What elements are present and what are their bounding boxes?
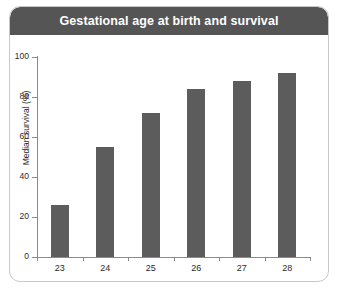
bar-26 bbox=[187, 89, 205, 257]
x-axis-tick bbox=[83, 257, 84, 261]
x-axis-tick bbox=[265, 257, 266, 261]
x-axis-tick-label: 24 bbox=[100, 263, 110, 273]
y-axis-title: Median survival (%) bbox=[21, 68, 31, 188]
bars-container: 020406080100232425262728 bbox=[37, 57, 310, 257]
x-axis-tick-label: 26 bbox=[191, 263, 201, 273]
x-axis-title: Gestational age (weeks) bbox=[10, 281, 329, 282]
y-axis-tick-label: 0 bbox=[24, 251, 29, 261]
page-title: Gestational age at birth and survival bbox=[59, 14, 278, 28]
bar-24 bbox=[96, 147, 114, 257]
chart-header: Gestational age at birth and survival bbox=[10, 7, 328, 35]
x-axis-tick-label: 28 bbox=[282, 263, 292, 273]
y-axis-tick-label: 20 bbox=[20, 211, 29, 221]
y-axis-tick: 60 bbox=[32, 137, 37, 138]
x-axis-tick bbox=[174, 257, 175, 261]
chart-plot-area: Median survival (%) 02040608010023242526… bbox=[10, 35, 329, 282]
x-axis-tick bbox=[310, 257, 311, 261]
chart-card: Gestational age at birth and survival Me… bbox=[9, 6, 329, 282]
x-axis-tick-label: 27 bbox=[237, 263, 247, 273]
y-axis-tick: 40 bbox=[32, 177, 37, 178]
x-axis-tick bbox=[128, 257, 129, 261]
bar-27 bbox=[233, 81, 251, 257]
x-axis-tick-label: 23 bbox=[55, 263, 65, 273]
y-axis-tick: 100 bbox=[32, 57, 37, 58]
y-axis-tick-label: 40 bbox=[20, 171, 29, 181]
x-axis-tick bbox=[219, 257, 220, 261]
y-axis-tick-label: 100 bbox=[15, 51, 29, 61]
x-axis-tick bbox=[37, 257, 38, 261]
bar-23 bbox=[51, 205, 69, 257]
y-axis-tick-label: 60 bbox=[20, 131, 29, 141]
x-axis-tick-label: 25 bbox=[146, 263, 156, 273]
bar-25 bbox=[142, 113, 160, 257]
y-axis-tick: 80 bbox=[32, 97, 37, 98]
bar-28 bbox=[278, 73, 296, 257]
y-axis-tick-label: 80 bbox=[20, 91, 29, 101]
y-axis-tick: 20 bbox=[32, 217, 37, 218]
